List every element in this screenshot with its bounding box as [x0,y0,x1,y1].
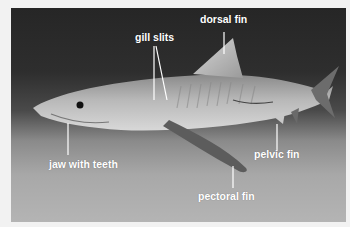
pectoral-fin [163,120,247,172]
shark-photo: gill slits dorsal fin jaw with teeth pel… [11,8,346,222]
label-gill-slits: gill slits [135,31,174,43]
shark-tail [311,66,339,118]
label-pelvic-fin: pelvic fin [254,148,300,160]
label-pectoral-fin: pectoral fin [198,190,255,202]
shark-illustration [11,8,346,222]
label-dorsal-fin: dorsal fin [200,13,247,25]
dorsal-fin [193,38,243,78]
shark-eye [77,102,84,109]
label-jaw-with-teeth: jaw with teeth [49,158,118,170]
